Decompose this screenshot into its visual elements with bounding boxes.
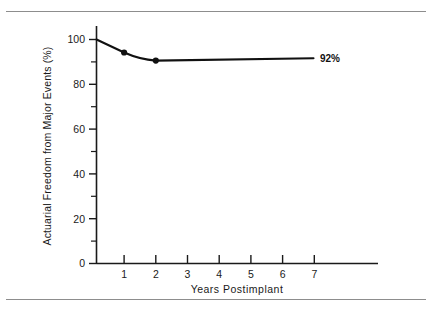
x-tick-label: 3 <box>185 268 191 280</box>
curve-end-annotation: 92% <box>320 53 340 64</box>
data-point-marker <box>153 58 159 64</box>
data-point-marker <box>121 49 127 55</box>
y-tick-label: 0 <box>79 257 85 269</box>
data-line-actuarial-freedom <box>97 40 314 61</box>
figure-panel: Actuarial Freedom from Major Events (%) … <box>0 0 432 311</box>
x-tick-label: 6 <box>280 268 286 280</box>
y-tick-label: 100 <box>67 33 85 45</box>
x-tick-label: 7 <box>311 268 317 280</box>
y-tick-label: 20 <box>73 213 85 225</box>
x-axis-ticks <box>124 255 314 264</box>
y-tick-label: 80 <box>73 78 85 90</box>
x-tick-label: 4 <box>216 268 222 280</box>
y-tick-label: 40 <box>73 168 85 180</box>
x-tick-label: 2 <box>153 268 159 280</box>
x-tick-label: 5 <box>248 268 254 280</box>
line-chart: 0 20 40 60 80 100 1 2 3 4 5 6 7 <box>0 0 432 311</box>
x-tick-label: 1 <box>121 268 127 280</box>
y-axis-minor-ticks <box>91 62 97 241</box>
y-tick-label: 60 <box>73 123 85 135</box>
x-axis-tick-labels: 1 2 3 4 5 6 7 <box>121 268 317 280</box>
y-axis-tick-labels: 0 20 40 60 80 100 <box>67 33 85 269</box>
